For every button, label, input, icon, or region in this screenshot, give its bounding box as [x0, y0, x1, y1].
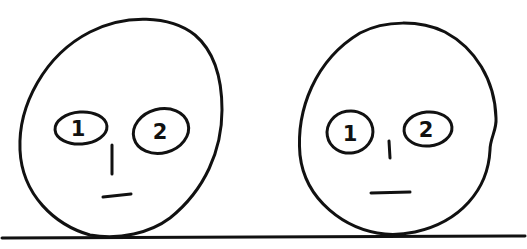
- right-face-nose: [389, 141, 390, 158]
- right-face-outline: [299, 23, 496, 234]
- right-face-mouth: [371, 192, 410, 193]
- eye-label-2: 2: [153, 120, 168, 144]
- left-face-eye-1: 1: [54, 110, 108, 146]
- eye-label-2: 2: [419, 118, 434, 142]
- left-face: 1 2: [20, 19, 222, 236]
- left-face-eye-2: 2: [128, 103, 193, 160]
- diagram-canvas: 1 2 1 2: [0, 0, 527, 249]
- ground-line: [2, 236, 525, 238]
- eye-label-1: 1: [71, 117, 86, 141]
- eye-label-1: 1: [343, 122, 358, 146]
- right-face: 1 2: [299, 23, 496, 234]
- left-face-mouth: [103, 194, 131, 197]
- left-face-outline: [20, 19, 222, 236]
- right-face-eye-1: 1: [324, 107, 377, 156]
- faces-drawing: 1 2 1 2: [0, 0, 527, 249]
- right-face-eye-2: 2: [403, 110, 454, 148]
